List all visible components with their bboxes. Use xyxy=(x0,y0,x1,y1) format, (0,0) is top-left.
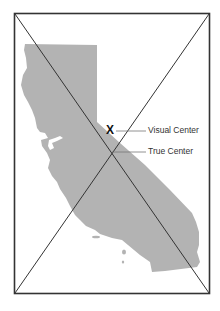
visual-center-label: Visual Center xyxy=(148,125,199,135)
visual-center-marker-icon: X xyxy=(106,124,114,136)
true-center-label: True Center xyxy=(148,146,193,156)
california-shape xyxy=(21,44,200,272)
diagram-canvas: X Visual Center True Center xyxy=(0,0,220,311)
